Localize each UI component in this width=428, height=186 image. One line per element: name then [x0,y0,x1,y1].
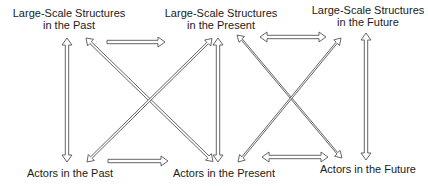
arrow-structures-future-actors-future [361,33,371,160]
arrow-actors-present-structures-future [238,38,341,162]
arrow-structures-present-actors-present [213,38,223,162]
arrow-structures-past-actors-past [62,38,72,162]
arrow-structures-past-structures-present [107,37,165,47]
arrow-actors-present-actors-future [262,152,328,162]
arrow-structures-present-structures-future [260,32,326,42]
diagram-arrows [0,0,428,186]
arrow-actors-past-actors-present [108,156,168,166]
